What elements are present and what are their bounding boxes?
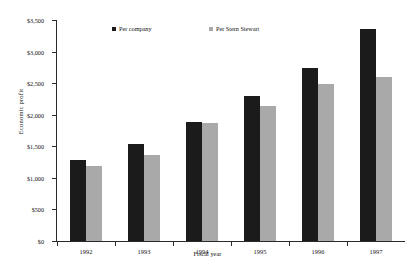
- y-tick-mark: [52, 146, 56, 147]
- bar-1992-series-1: [70, 160, 86, 241]
- y-tick-label: $3,000: [27, 48, 44, 55]
- x-tick-mark: [289, 242, 290, 246]
- bar-1995-series-2: [260, 106, 276, 241]
- chart-legend: Per company Per Stern Stewart: [112, 26, 302, 38]
- y-tick-label: $2,500: [27, 80, 44, 87]
- plot-area: [57, 20, 405, 241]
- bar-group: [128, 20, 160, 241]
- bar-1992-series-2: [86, 166, 102, 241]
- bar-1996-series-2: [318, 84, 334, 241]
- bar-1997-series-1: [360, 29, 376, 241]
- bar-1995-series-1: [244, 96, 260, 241]
- y-tick-label: $500: [32, 206, 44, 213]
- bar-chart: Economic profit $0$500$1,000$1,500$2,000…: [0, 0, 415, 275]
- bar-group: [244, 20, 276, 241]
- bar-1994-series-1: [186, 122, 202, 241]
- bar-1993-series-1: [128, 144, 144, 241]
- y-axis-ticks: $0$500$1,000$1,500$2,000$2,500$3,000$3,5…: [0, 0, 49, 275]
- x-tick-mark: [347, 242, 348, 246]
- bar-1996-series-1: [302, 68, 318, 241]
- y-tick-mark: [52, 20, 56, 21]
- legend-swatch-light: [209, 27, 213, 31]
- legend-label-per-company: Per company: [119, 26, 151, 32]
- bar-group: [70, 20, 102, 241]
- legend-item-per-company: Per company: [112, 26, 151, 32]
- y-tick-mark: [52, 52, 56, 53]
- bar-group: [186, 20, 218, 241]
- y-tick-mark: [52, 115, 56, 116]
- legend-item-per-stern-stewart: Per Stern Stewart: [209, 26, 259, 32]
- bar-group: [360, 20, 392, 241]
- x-tick-mark: [115, 242, 116, 246]
- x-tick-mark: [173, 242, 174, 246]
- y-tick-mark: [52, 178, 56, 179]
- x-tick-mark: [57, 242, 58, 246]
- bar-group: [302, 20, 334, 241]
- y-tick-label: $2,000: [27, 111, 44, 118]
- x-tick-mark: [231, 242, 232, 246]
- legend-label-per-stern-stewart: Per Stern Stewart: [216, 26, 259, 32]
- bar-1994-series-2: [202, 123, 218, 241]
- bar-1997-series-2: [376, 77, 392, 241]
- y-tick-mark: [52, 209, 56, 210]
- x-axis-title: Fiscal year: [0, 250, 415, 257]
- y-tick-label: $3,500: [27, 17, 44, 24]
- y-tick-label: $1,000: [27, 174, 44, 181]
- y-tick-mark: [52, 241, 56, 242]
- legend-swatch-dark: [112, 27, 116, 31]
- y-tick-mark: [52, 83, 56, 84]
- y-tick-label: $0: [38, 238, 44, 245]
- y-tick-label: $1,500: [27, 143, 44, 150]
- bar-1993-series-2: [144, 155, 160, 242]
